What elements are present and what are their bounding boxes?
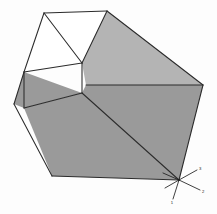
figure-canvas: 321 bbox=[0, 0, 217, 214]
figure-svg: 321 bbox=[0, 0, 217, 214]
